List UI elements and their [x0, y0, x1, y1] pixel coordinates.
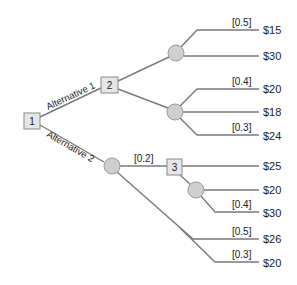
edge-b-top — [180, 89, 259, 106]
payoff-d1: $20 — [263, 184, 281, 196]
decision-node-2-label: 2 — [107, 80, 113, 91]
chance-node-d — [188, 182, 204, 198]
edge-3-to-chance-d — [180, 175, 191, 185]
edge-a-top — [181, 30, 259, 47]
payoff-a2: $30 — [263, 50, 281, 62]
payoff-b3: $24 — [263, 130, 281, 142]
payoff-c2: $26 — [263, 233, 281, 245]
decision-node-1-label: 1 — [29, 116, 35, 127]
payoff-n3-top: $25 — [263, 160, 281, 172]
decision-node-3-label: 3 — [172, 162, 178, 173]
prob-b-bottom: [0.3] — [232, 122, 252, 133]
payoff-b1: $20 — [263, 83, 281, 95]
alternative-2-label: Alternative 2 — [45, 128, 96, 164]
edge-2-to-chance-b — [118, 89, 168, 108]
alternative-1-label: Alternative 1 — [44, 80, 97, 112]
decision-node-1: 1 — [24, 113, 40, 129]
edge-2-to-chance-a — [118, 57, 169, 81]
prob-a-top: [0.5] — [232, 17, 252, 28]
payoff-a1: $15 — [263, 24, 281, 36]
payoff-c3: $20 — [263, 257, 281, 269]
payoff-b2: $18 — [263, 106, 281, 118]
prob-d-bottom: [0.4] — [232, 199, 252, 210]
decision-node-2: 2 — [101, 77, 118, 93]
decision-tree-diagram: 1 2 3 Alternative 1 Alternative 2 [0.5] … — [0, 0, 297, 285]
prob-c-to-3: [0.2] — [134, 153, 154, 164]
prob-b-top: [0.4] — [232, 76, 252, 87]
chance-node-c — [104, 158, 120, 174]
decision-node-3: 3 — [167, 159, 182, 175]
prob-c-mid: [0.5] — [232, 226, 252, 237]
chance-node-a — [168, 45, 184, 61]
prob-c-bottom: [0.3] — [232, 249, 252, 260]
chance-node-b — [167, 104, 183, 120]
payoff-d2: $30 — [263, 207, 281, 219]
